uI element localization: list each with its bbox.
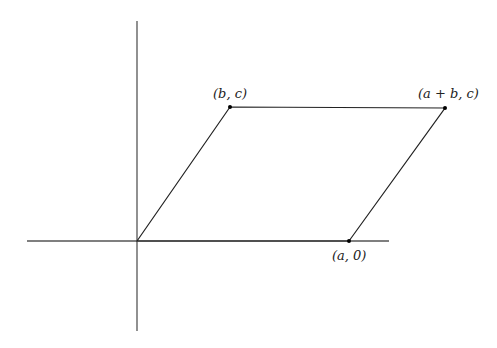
- vertex-dot-b-c: [228, 105, 232, 109]
- vertex-dots: [228, 105, 447, 243]
- label-a-plus-b-c: (a + b, c): [418, 86, 479, 101]
- vertex-dot-a-plus-b-c: [443, 106, 447, 110]
- label-b-c: (b, c): [213, 86, 247, 101]
- vertex-dot-a-0: [347, 239, 351, 243]
- parallelogram-diagram: (b, c) (a + b, c) (a, 0): [0, 0, 497, 348]
- vertex-labels: (b, c) (a + b, c) (a, 0): [213, 86, 479, 263]
- parallelogram: [137, 107, 445, 241]
- label-a-0: (a, 0): [332, 248, 366, 263]
